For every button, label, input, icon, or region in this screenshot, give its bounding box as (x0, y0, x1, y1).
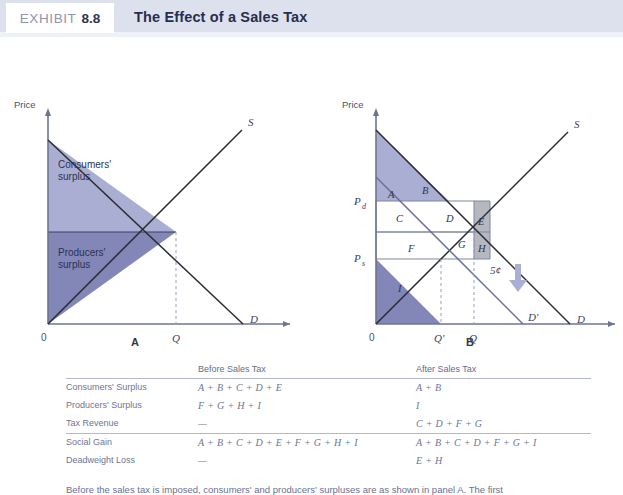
row-before: A + B + C + D + E + F + G + H + I (198, 433, 416, 452)
x-tick-q-a: Q (172, 332, 180, 344)
row-label: Social Gain (66, 433, 198, 452)
price-label-ps: P s (353, 252, 365, 268)
region-label-d: D (445, 213, 454, 224)
tax-amount-label: 5¢ (490, 264, 502, 276)
exhibit-badge: EXHIBIT 8.8 (6, 3, 114, 33)
producers-surplus-region (48, 232, 176, 324)
panel-a-caption: A (120, 336, 150, 348)
table-row: Social Gain A + B + C + D + E + F + G + … (66, 433, 591, 452)
panel-a-chart: Price S D 0 Q Quantity Consumers' surplu… (0, 46, 320, 356)
svg-text:P: P (353, 252, 361, 264)
row-label: Deadweight Loss (66, 452, 198, 470)
exhibit-number: 8.8 (81, 11, 100, 26)
price-label-pd: P d (353, 195, 367, 211)
row-label: Tax Revenue (66, 415, 198, 434)
svg-text:P: P (353, 195, 361, 207)
row-after: I (416, 397, 591, 415)
region-label-b: B (422, 185, 429, 196)
y-axis-label-a: Price (14, 99, 36, 110)
shifted-demand-curve-label-b: D' (527, 311, 539, 323)
consumers-surplus-label-line1: Consumers' (58, 159, 111, 170)
region-label-g: G (458, 239, 466, 250)
row-after: A + B + C + D + F + G + I (416, 433, 591, 452)
row-after: A + B (416, 378, 591, 397)
region-label-a: A (387, 189, 395, 200)
origin-label-a: 0 (41, 332, 47, 343)
panel-b-chart: 5¢ Price S D D' 0 Q' Q Quantity P d P s … (330, 46, 623, 356)
table-row: Consumers' Surplus A + B + C + D + E A +… (66, 378, 591, 397)
table-row: Producers' Surplus F + G + H + I I (66, 397, 591, 415)
panel-b-caption: B (455, 336, 485, 348)
exhibit-label: EXHIBIT (20, 11, 77, 26)
region-label-h: H (477, 243, 487, 254)
table-col-before: Before Sales Tax (198, 360, 416, 378)
row-before: — (198, 415, 416, 434)
y-axis-label-b: Price (342, 99, 364, 110)
demand-curve-label-a: D (249, 313, 258, 325)
consumers-surplus-label-line2: surplus (58, 171, 90, 182)
row-after: C + D + F + G (416, 415, 591, 434)
svg-text:d: d (362, 202, 367, 211)
supply-curve-label-b: S (574, 118, 580, 130)
row-before: F + G + H + I (198, 397, 416, 415)
x-tick-q-prime: Q' (434, 332, 445, 344)
demand-curve-label-b: D (576, 313, 585, 325)
row-before: A + B + C + D + E (198, 378, 416, 397)
table-row: Tax Revenue — C + D + F + G (66, 415, 591, 434)
table-col-after: After Sales Tax (416, 360, 591, 378)
row-after: E + H (416, 452, 591, 470)
figure-caption: Before the sales tax is imposed, consume… (66, 483, 591, 495)
region-label-e: E (477, 216, 485, 227)
exhibit-header-band: EXHIBIT 8.8 The Effect of a Sales Tax (0, 0, 623, 37)
surplus-summary-table: Before Sales Tax After Sales Tax Consume… (66, 360, 591, 470)
svg-text:s: s (362, 259, 365, 268)
producers-surplus-label-line2: surplus (58, 259, 90, 270)
row-label: Producers' Surplus (66, 397, 198, 415)
region-label-c: C (396, 213, 404, 224)
table-row: Deadweight Loss — E + H (66, 452, 591, 470)
exhibit-title: The Effect of a Sales Tax (134, 9, 308, 25)
x-axis-arrow (283, 321, 290, 327)
origin-label-b: 0 (369, 332, 375, 343)
region-label-f: F (407, 243, 415, 254)
region-cd-box (376, 201, 474, 232)
y-axis-arrow (45, 108, 51, 116)
region-label-i: I (397, 283, 402, 294)
y-axis-arrow-b (373, 108, 379, 116)
row-before: — (198, 452, 416, 470)
row-label: Consumers' Surplus (66, 378, 198, 397)
supply-curve-label-a: S (248, 116, 254, 128)
table-header-row: Before Sales Tax After Sales Tax (66, 360, 591, 378)
table-col-blank (66, 360, 198, 378)
consumers-surplus-region (48, 140, 176, 232)
producers-surplus-label-line1: Producers' (58, 247, 106, 258)
panel-a-svg: Price S D 0 Q Quantity Consumers' surplu… (0, 46, 320, 356)
x-axis-label-a: Quantity (129, 355, 165, 356)
x-axis-label-b: Quantity (442, 355, 478, 356)
x-axis-arrow-b (608, 321, 615, 327)
panel-b-svg: 5¢ Price S D D' 0 Q' Q Quantity P d P s … (330, 46, 623, 356)
